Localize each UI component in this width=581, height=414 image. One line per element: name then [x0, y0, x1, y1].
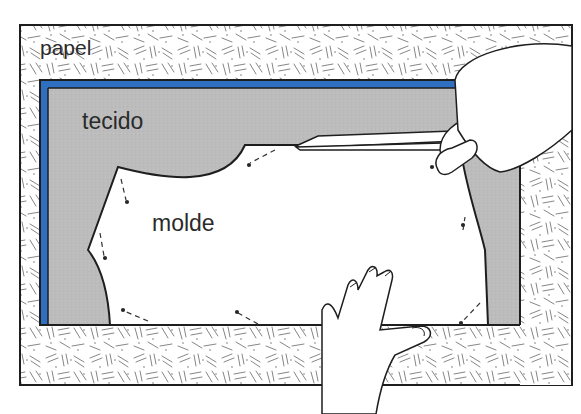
sewing-cutting-diagram [0, 0, 581, 414]
pattern-label: molde [152, 210, 215, 237]
fabric-label: tecido [82, 108, 143, 135]
paper-label: papel [40, 36, 91, 60]
